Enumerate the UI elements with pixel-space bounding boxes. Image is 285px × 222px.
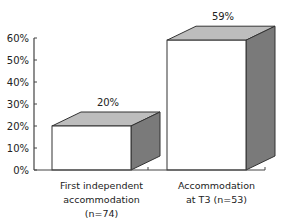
y-tick-label: 30% — [7, 99, 29, 110]
x-category-label: at T3 (n=53) — [186, 194, 247, 205]
x-axis: First independentaccommodation(n=74)Acco… — [34, 167, 265, 219]
bar-1: 20% — [52, 97, 160, 170]
y-tick-label: 60% — [7, 33, 29, 44]
y-tick-label: 40% — [7, 77, 29, 88]
bar-side-face — [246, 26, 275, 170]
y-tick-label: 20% — [7, 121, 29, 132]
x-category-label: First independent — [60, 180, 143, 191]
x-category-label: Accommodation — [178, 180, 255, 191]
bar-front-face — [52, 126, 131, 170]
y-axis: 0%10%20%30%40%50%60% — [7, 33, 37, 176]
bar-front-face — [167, 40, 246, 170]
bar-2: 59% — [167, 11, 275, 170]
bar-chart: 0%10%20%30%40%50%60% 20%59% First indepe… — [0, 0, 285, 222]
bars: 20%59% — [52, 11, 275, 170]
bar-value-label: 59% — [212, 11, 234, 22]
y-tick-label: 0% — [13, 165, 29, 176]
y-tick-label: 10% — [7, 143, 29, 154]
bar-value-label: 20% — [97, 97, 119, 108]
y-tick-label: 50% — [7, 55, 29, 66]
x-category-label: accommodation — [63, 194, 139, 205]
x-category-label: (n=74) — [85, 208, 118, 219]
